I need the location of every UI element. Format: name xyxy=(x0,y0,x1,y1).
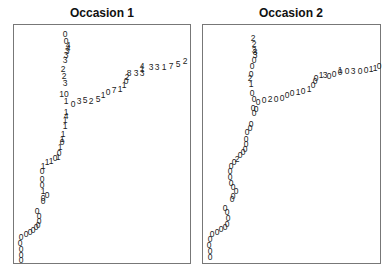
data-point-label: 0 xyxy=(24,230,29,239)
data-point-label: 0 xyxy=(377,62,382,71)
data-point-label: 3 xyxy=(63,79,68,88)
data-point-label: 0 xyxy=(215,228,220,237)
data-point-label: 0 xyxy=(41,197,46,206)
data-point-label: 0 xyxy=(230,195,235,204)
data-point-label: 8 xyxy=(127,69,132,78)
data-point-label: 5 xyxy=(83,96,88,105)
data-point-label: 1 xyxy=(162,63,167,72)
panel-title-occasion-1: Occasion 1 xyxy=(12,6,192,20)
data-point-label: 0 xyxy=(262,96,267,105)
data-point-label: 1 xyxy=(64,97,69,106)
data-point-label: 7 xyxy=(112,86,117,95)
data-point-label: 3 xyxy=(134,69,139,78)
data-point-label: 0 xyxy=(252,109,257,118)
data-point-label: 0 xyxy=(208,253,213,262)
data-point-label: 0 xyxy=(19,256,24,265)
data-point-label: 4 xyxy=(140,62,145,71)
data-point-label: 2 xyxy=(89,97,94,106)
data-point-label: 0 xyxy=(338,68,343,77)
data-point-label: 2 xyxy=(268,95,273,104)
data-point-label: 0 xyxy=(290,89,295,98)
data-point-label: 0 xyxy=(332,70,337,79)
data-point-label: 2 xyxy=(183,57,188,66)
data-point-label: 0 xyxy=(345,67,350,76)
panel-title-occasion-2: Occasion 2 xyxy=(201,6,381,20)
data-point-label: 3 xyxy=(351,67,356,76)
data-point-label: 0 xyxy=(106,88,111,97)
data-point-label: 0 xyxy=(358,67,363,76)
plot-panel-occasion-1: 0044333223101035251071102833143317521411… xyxy=(13,24,191,264)
data-point-label: 3 xyxy=(155,63,160,72)
data-point-label: 0 xyxy=(274,95,279,104)
data-point-label: 0 xyxy=(301,87,306,96)
data-point-label: 0 xyxy=(71,100,76,109)
data-point-label: 7 xyxy=(169,62,174,71)
plot-panel-occasion-2: 2238300021000020000101000130010030011000… xyxy=(202,24,381,264)
data-point-label: 3 xyxy=(149,63,154,72)
data-point-label: 5 xyxy=(176,60,181,69)
data-point-label: 3 xyxy=(77,97,82,106)
